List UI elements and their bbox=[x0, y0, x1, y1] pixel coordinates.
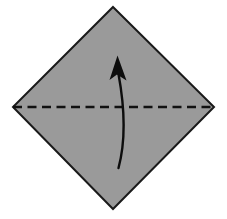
fold-diagram-container bbox=[0, 0, 227, 219]
origami-fold-diagram bbox=[0, 0, 227, 219]
